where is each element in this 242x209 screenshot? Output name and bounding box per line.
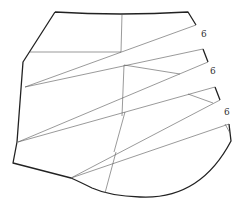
pattern-outline xyxy=(13,12,231,197)
dart-1 xyxy=(25,25,203,87)
dart-label-1: 6 xyxy=(201,29,207,39)
dart-label-2: 6 xyxy=(210,66,216,76)
dart-3 xyxy=(71,100,229,178)
pattern-diagram: 6 6 6 xyxy=(0,0,242,209)
vertical-guide xyxy=(105,14,125,193)
dart-label-3: 6 xyxy=(224,107,230,117)
dart-2 xyxy=(18,62,215,142)
